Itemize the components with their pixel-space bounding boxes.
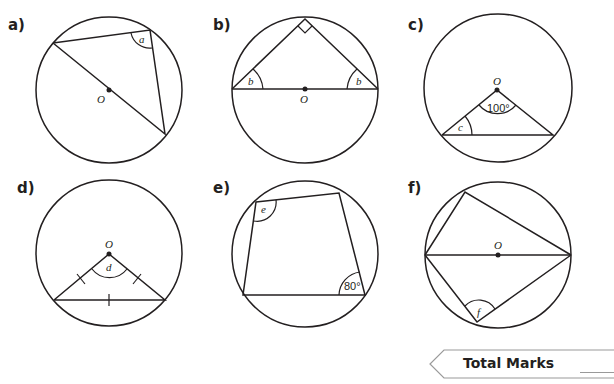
- right-angle-mark-b: [298, 26, 312, 33]
- centre-label-f: O: [494, 239, 502, 251]
- triangle-a: [53, 30, 165, 134]
- total-marks-answer-line: [580, 372, 614, 373]
- figure-a: a) a O: [8, 16, 182, 163]
- given-angle-e: 80°: [344, 280, 361, 292]
- figure-d: d) d O: [17, 179, 182, 326]
- figure-c: c) 100° c O: [408, 14, 572, 162]
- centre-label-a: O: [97, 93, 105, 105]
- angle-arc-c: [465, 116, 472, 135]
- angle-label-c: c: [458, 121, 463, 133]
- centre-label-b: O: [300, 93, 308, 105]
- angle-label-e: e: [261, 203, 266, 215]
- figure-e: e) e 80°: [213, 179, 378, 327]
- centre-point-d: [107, 252, 112, 257]
- centre-point-b: [303, 87, 308, 92]
- angle-label-d: d: [106, 261, 112, 273]
- centre-point-a: [107, 88, 112, 93]
- angle-label-a: a: [139, 33, 145, 45]
- angle-label-b-right: b: [356, 75, 362, 87]
- centre-label-d: O: [105, 238, 113, 250]
- question-label-e: e): [213, 179, 230, 197]
- question-label-d: d): [17, 179, 35, 197]
- centre-point-c: [495, 88, 500, 93]
- figure-f: f) f O: [408, 179, 571, 328]
- circle-e: [232, 181, 378, 327]
- angle-arc-b-left: [253, 69, 263, 89]
- given-angle-c: 100°: [487, 102, 510, 114]
- lower-triangle-f: [425, 255, 571, 322]
- centre-label-c: O: [493, 75, 501, 87]
- question-label-b: b): [213, 16, 231, 34]
- question-label-a: a): [8, 16, 25, 34]
- angle-label-b-left: b: [248, 75, 254, 87]
- circle-theorem-figures: a) a O b) b b O c) 100° c O d): [0, 0, 614, 384]
- total-marks-label: Total Marks: [463, 355, 554, 371]
- angle-label-f: f: [477, 306, 482, 318]
- total-marks-box: Total Marks: [428, 349, 614, 379]
- centre-point-f: [496, 253, 501, 258]
- figure-b: b) b b O: [213, 16, 378, 163]
- question-label-c: c): [408, 16, 424, 34]
- question-label-f: f): [408, 179, 421, 197]
